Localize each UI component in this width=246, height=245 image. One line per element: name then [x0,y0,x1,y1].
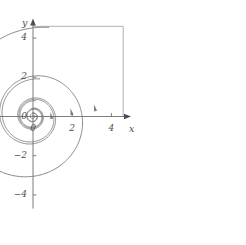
x-tick-label: 4 [97,123,125,133]
y-tick-label: −4 [1,189,27,199]
y-tick-label: −2 [1,150,27,160]
y-axis-label: y [22,17,27,28]
x-axis-label: x [129,123,134,134]
flow-arrow-outer [92,104,97,112]
x-tick-label: −2 [0,123,8,133]
x-tick-label: 0 [19,123,47,133]
x-tick-label: 2 [58,123,86,133]
y-axis-arrowhead [30,19,36,26]
y-tick-label: 4 [1,32,27,42]
flow-arrow-middle [69,108,74,116]
y-tick-label: 2 [1,71,27,81]
y-tick-label: 0 [1,111,27,121]
phase-portrait-figure: −4−2024 420−2−4 x y [0,0,246,245]
x-axis-arrowhead [124,114,131,120]
y-axis-ticks [33,38,36,195]
